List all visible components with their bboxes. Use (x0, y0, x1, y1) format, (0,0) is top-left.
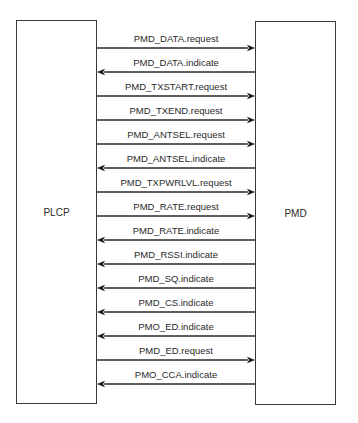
arrowhead-left-icon (97, 285, 105, 291)
primitive-arrows: PMD_DATA.requestPMD_DATA.indicatePMD_TXS… (0, 0, 358, 423)
primitive-pmd-txstart-request: PMD_TXSTART.request (97, 81, 255, 99)
primitive-label: PMD_SQ.indicate (138, 273, 214, 284)
primitive-label: PMD_ANTSEL.indicate (127, 153, 226, 164)
primitive-pmd-txend-request: PMD_TXEND.request (97, 105, 255, 123)
primitive-pmd-sq-indicate: PMD_SQ.indicate (97, 273, 255, 291)
arrowhead-left-icon (97, 333, 105, 339)
primitive-pmd-rate-indicate: PMD_RATE.indicate (97, 225, 255, 243)
primitive-pmd-antsel-indicate: PMD_ANTSEL.indicate (97, 153, 255, 171)
arrowhead-right-icon (247, 213, 255, 219)
primitive-label: PMD_DATA.request (134, 33, 219, 44)
primitive-label: PMO_ED.indicate (138, 321, 214, 332)
primitive-label: PMD_TXEND.request (130, 105, 223, 116)
arrowhead-left-icon (97, 381, 105, 387)
primitive-pmd-rssi-indicate: PMD_RSSI.indicate (97, 249, 255, 267)
primitive-label: PMO_CCA.indicate (135, 369, 217, 380)
arrowhead-left-icon (97, 237, 105, 243)
arrowhead-right-icon (247, 357, 255, 363)
primitive-pmo-ed-indicate: PMO_ED.indicate (97, 321, 255, 339)
arrowhead-right-icon (247, 189, 255, 195)
arrowhead-right-icon (247, 93, 255, 99)
primitive-label: PMD_DATA.indicate (133, 57, 219, 68)
primitive-pmd-rate-request: PMD_RATE.request (97, 201, 255, 219)
primitive-label: PMD_ANTSEL.request (127, 129, 225, 140)
primitive-pmd-antsel-request: PMD_ANTSEL.request (97, 129, 255, 147)
primitive-label: PMD_CS.indicate (139, 297, 214, 308)
arrowhead-left-icon (97, 69, 105, 75)
primitive-label: PMD_TXSTART.request (125, 81, 227, 92)
primitive-pmd-txpwrlvl-request: PMD_TXPWRLVL.request (97, 177, 255, 195)
primitive-label: PMD_RATE.indicate (133, 225, 219, 236)
primitive-label: PMD_RSSI.indicate (134, 249, 218, 260)
arrowhead-left-icon (97, 165, 105, 171)
primitive-pmd-cs-indicate: PMD_CS.indicate (97, 297, 255, 315)
arrowhead-left-icon (97, 261, 105, 267)
primitive-pmd-data-request: PMD_DATA.request (97, 33, 255, 51)
arrowhead-left-icon (97, 309, 105, 315)
primitive-label: PMD_RATE.request (133, 201, 219, 212)
primitive-pmd-data-indicate: PMD_DATA.indicate (97, 57, 255, 75)
primitive-label: PMD_ED.request (139, 345, 213, 356)
primitive-pmd-ed-request: PMD_ED.request (97, 345, 255, 363)
arrowhead-right-icon (247, 117, 255, 123)
arrowhead-right-icon (247, 141, 255, 147)
primitive-pmo-cca-indicate: PMO_CCA.indicate (97, 369, 255, 387)
primitive-label: PMD_TXPWRLVL.request (120, 177, 232, 188)
arrowhead-right-icon (247, 45, 255, 51)
